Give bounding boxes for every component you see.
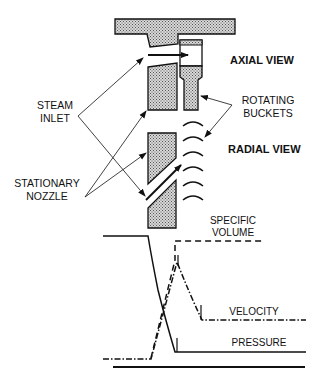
rotating-buckets-label-2: BUCKETS <box>243 107 293 119</box>
nozzle-wall-axial <box>148 63 177 110</box>
rotor-disk <box>180 66 202 110</box>
stationary-nozzle-label-2: NOZZLE <box>26 190 67 202</box>
stationary-nozzle-label-1: STATIONARY <box>14 177 79 189</box>
radial-view <box>146 122 203 228</box>
axial-view-label: AXIAL VIEW <box>230 54 295 66</box>
velocity-label: VELOCITY <box>229 306 279 317</box>
axial-view <box>115 19 235 110</box>
impulse-turbine-diagram: AXIAL VIEW RADIAL VIEW STEAM INLET ROTAT… <box>0 0 325 381</box>
nozzle-block-lower <box>148 180 176 228</box>
specific-volume-label-1: SPECIFIC <box>210 215 256 226</box>
rotating-buckets-label-1: ROTATING <box>242 94 295 106</box>
pressure-curve <box>103 236 306 352</box>
nozzle-block-upper <box>148 133 176 184</box>
pressure-label: PRESSURE <box>231 337 286 348</box>
specific-volume-label-2: VOLUME <box>212 227 255 238</box>
bucket-arcs <box>183 122 203 200</box>
casing <box>115 19 235 47</box>
steam-inlet-label-1: STEAM <box>37 99 73 111</box>
steam-inlet-label-2: INLET <box>40 112 70 124</box>
radial-view-label: RADIAL VIEW <box>228 143 301 155</box>
